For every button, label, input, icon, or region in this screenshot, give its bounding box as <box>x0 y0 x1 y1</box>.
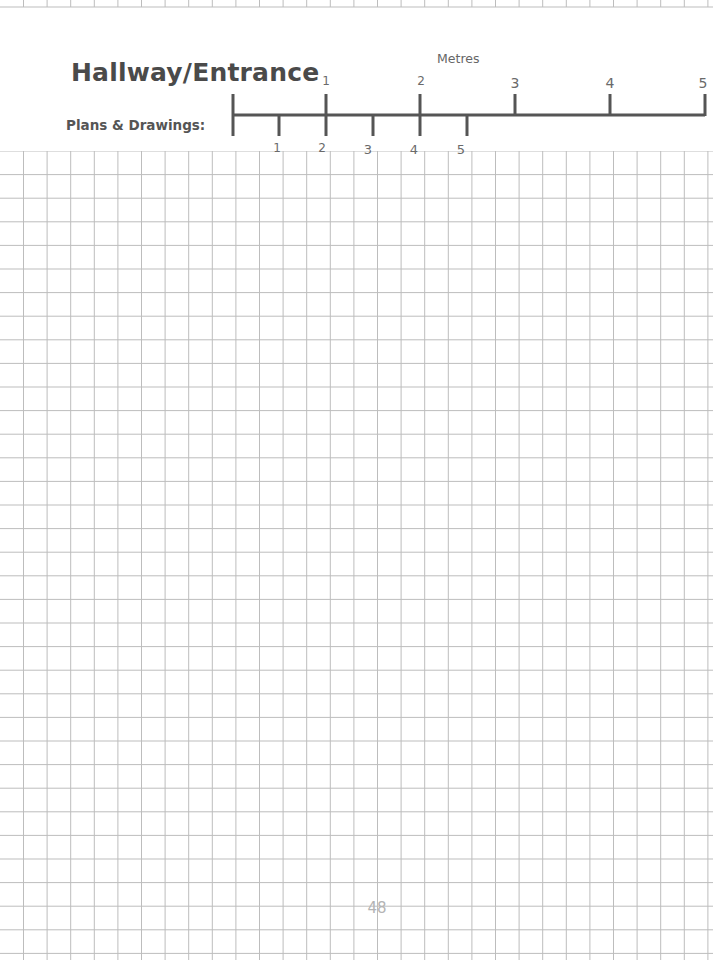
upper-scale-label: 5 <box>699 76 708 90</box>
lower-scale-label: 3 <box>364 143 372 156</box>
scale-units-label: Metres <box>437 51 479 66</box>
graph-paper-grid <box>0 0 713 960</box>
upper-scale-label: 3 <box>511 76 520 90</box>
grid-lines <box>0 8 713 960</box>
upper-scale-label: 4 <box>606 76 615 90</box>
upper-scale-label: 2 <box>417 75 425 87</box>
lower-scale-label: 2 <box>318 142 326 154</box>
lower-scale-label: 5 <box>457 143 465 156</box>
top-margin-ruler <box>0 0 713 7</box>
lower-scale-label: 4 <box>410 143 418 156</box>
page-number: 48 <box>367 899 386 917</box>
upper-scale-label: 1 <box>322 75 330 87</box>
section-label: Plans & Drawings: <box>66 117 205 133</box>
page-title: Hallway/Entrance <box>71 58 319 87</box>
lower-scale-label: 1 <box>273 142 281 154</box>
